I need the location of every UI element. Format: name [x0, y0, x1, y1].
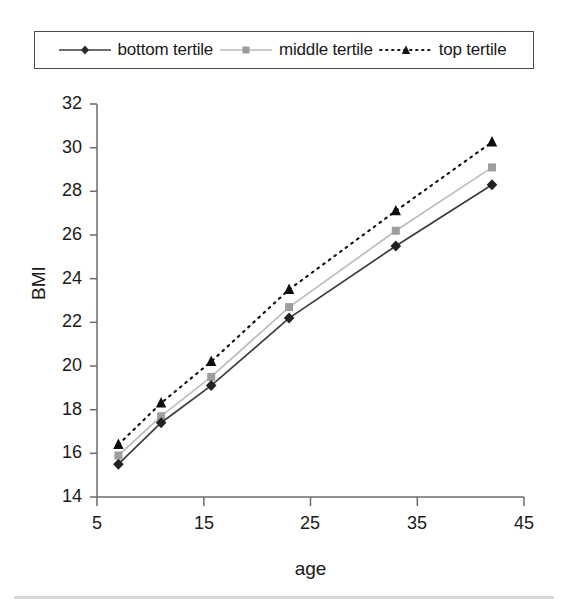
x-axis-ticks [97, 497, 524, 506]
series-bottom-line [118, 185, 492, 465]
x-tick-label-35: 35 [397, 513, 437, 534]
y-axis-ticks [90, 104, 97, 497]
x-tick-label-45: 45 [504, 513, 544, 534]
y-tick-label-32: 32 [42, 93, 82, 114]
y-tick-label-30: 30 [42, 137, 82, 158]
plot-area: 14 16 18 20 22 24 26 28 30 32 5 15 25 35… [0, 0, 566, 610]
x-tick-label-15: 15 [184, 513, 224, 534]
x-tick-label-5: 5 [77, 513, 117, 534]
y-tick-label-28: 28 [42, 180, 82, 201]
x-tick-label-25: 25 [290, 513, 330, 534]
series-top-tertile [113, 136, 497, 449]
y-tick-label-14: 14 [42, 486, 82, 507]
y-axis-title: BMI [28, 238, 50, 328]
series-bottom-tertile [113, 179, 497, 470]
series-bottom-markers [113, 179, 497, 470]
series-top-line [118, 142, 492, 445]
x-axis-title: age [97, 558, 524, 580]
y-tick-label-16: 16 [42, 442, 82, 463]
y-tick-label-20: 20 [42, 355, 82, 376]
chart-figure: bottom tertile middle tertile [0, 0, 566, 610]
page-bottom-rule [14, 596, 554, 599]
y-tick-label-18: 18 [42, 399, 82, 420]
series-top-markers [113, 136, 497, 449]
